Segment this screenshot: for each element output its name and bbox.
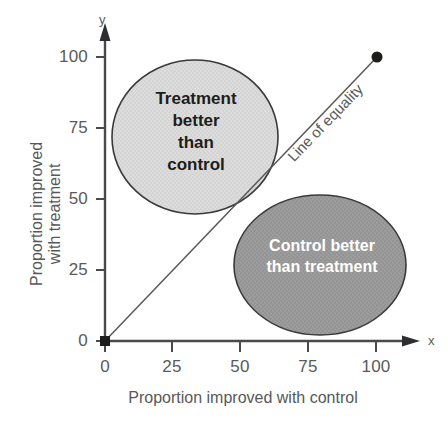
origin-marker [100, 336, 110, 346]
x-tick-label-50: 50 [215, 357, 265, 377]
y-axis-title-line-1: Proportion improved [28, 80, 46, 348]
y-axis-letter: y [99, 12, 106, 27]
x-tick-label-100: 100 [351, 357, 401, 377]
y-axis-ticks [96, 57, 105, 341]
y-axis-title: Proportion improved with treatment [28, 80, 64, 348]
x-axis-letter: x [428, 333, 435, 348]
x-axis-arrowhead [402, 336, 420, 347]
x-tick-label-0: 0 [80, 357, 130, 377]
x-tick-label-75: 75 [283, 357, 333, 377]
control-better-region [234, 195, 406, 335]
x-axis-ticks [105, 341, 376, 352]
treatment-better-region [112, 60, 278, 214]
x-axis-title: Proportion improved with control [98, 389, 388, 407]
y-tick-label-100: 100 [38, 47, 88, 67]
y-axis-title-line-2: with treatment [46, 80, 64, 348]
x-tick-label-25: 25 [147, 357, 197, 377]
figure-container: 100 75 50 25 0 0 25 50 75 100 y x Propor… [0, 0, 448, 428]
figure-caption [2, 412, 152, 422]
